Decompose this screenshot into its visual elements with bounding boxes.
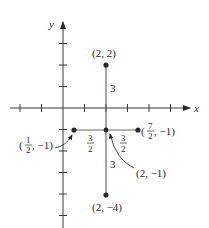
point-2-neg1 bbox=[104, 128, 109, 133]
svg-text:7: 7 bbox=[148, 121, 153, 131]
svg-text:2: 2 bbox=[121, 144, 126, 154]
point-7half-neg1 bbox=[135, 127, 140, 132]
distance-label-left: 3 2 bbox=[87, 133, 94, 154]
distance-label-lower: 3 bbox=[110, 158, 116, 170]
label-point-2-neg1: (2, −1) bbox=[136, 167, 166, 180]
point-2-neg4 bbox=[103, 192, 108, 197]
label-point-half-neg1: ( 1 2 , −1) bbox=[19, 135, 53, 155]
y-axis-label: y bbox=[48, 18, 54, 30]
point-2-2 bbox=[103, 62, 108, 67]
svg-text:2: 2 bbox=[148, 131, 153, 141]
svg-text:(: ( bbox=[141, 125, 145, 138]
label-point-2-2: (2, 2) bbox=[92, 47, 116, 60]
label-point-2-neg4: (2, −4) bbox=[92, 201, 122, 214]
point-half-neg1 bbox=[71, 127, 76, 132]
distance-label-right: 3 2 bbox=[120, 133, 127, 154]
svg-text:2: 2 bbox=[88, 144, 93, 154]
svg-text:3: 3 bbox=[121, 133, 126, 143]
svg-text:2: 2 bbox=[26, 145, 31, 155]
svg-text:3: 3 bbox=[88, 133, 93, 143]
distance-label-upper: 3 bbox=[110, 82, 116, 94]
svg-text:, −1): , −1) bbox=[154, 125, 175, 138]
svg-text:, −1): , −1) bbox=[32, 139, 53, 152]
svg-text:1: 1 bbox=[26, 135, 31, 145]
coordinate-diagram: x y (2, 2) (2, −4) (2, −1) ( 1 2 , −1) (… bbox=[0, 0, 209, 228]
x-axis-label: x bbox=[193, 102, 199, 114]
label-point-7half-neg1: ( 7 2 , −1) bbox=[141, 121, 175, 141]
svg-text:(: ( bbox=[19, 139, 23, 152]
